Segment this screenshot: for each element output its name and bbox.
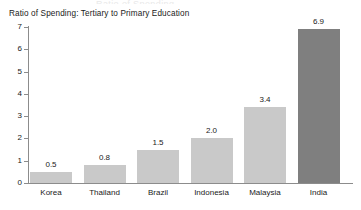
- category-label-indonesia: Indonesia: [185, 188, 239, 197]
- chart-screenshot: Ratio of Spending Ratio of Spending: Ter…: [0, 0, 361, 210]
- bar-thailand[interactable]: [84, 165, 126, 183]
- bar-value-label: 6.9: [298, 18, 340, 26]
- category-label-korea: Korea: [24, 188, 78, 197]
- category-label-brazil: Brazil: [131, 188, 185, 197]
- category-label-india: India: [292, 188, 346, 197]
- bar-value-label: 2.0: [191, 127, 233, 135]
- bar-brazil[interactable]: [137, 150, 179, 183]
- bar-indonesia[interactable]: [191, 138, 233, 183]
- plot-area: 01234567 0.50.81.52.03.46.9 KoreaThailan…: [0, 0, 361, 210]
- category-label-malaysia: Malaysia: [238, 188, 292, 197]
- bars-layer: 0.50.81.52.03.46.9: [0, 0, 361, 210]
- bar-value-label: 0.5: [30, 161, 72, 169]
- bar-malaysia[interactable]: [244, 107, 286, 183]
- bar-india[interactable]: [298, 29, 340, 183]
- bar-value-label: 1.5: [137, 139, 179, 147]
- bar-korea[interactable]: [30, 172, 72, 183]
- category-label-thailand: Thailand: [78, 188, 132, 197]
- bar-value-label: 3.4: [244, 96, 286, 104]
- bar-value-label: 0.8: [84, 154, 126, 162]
